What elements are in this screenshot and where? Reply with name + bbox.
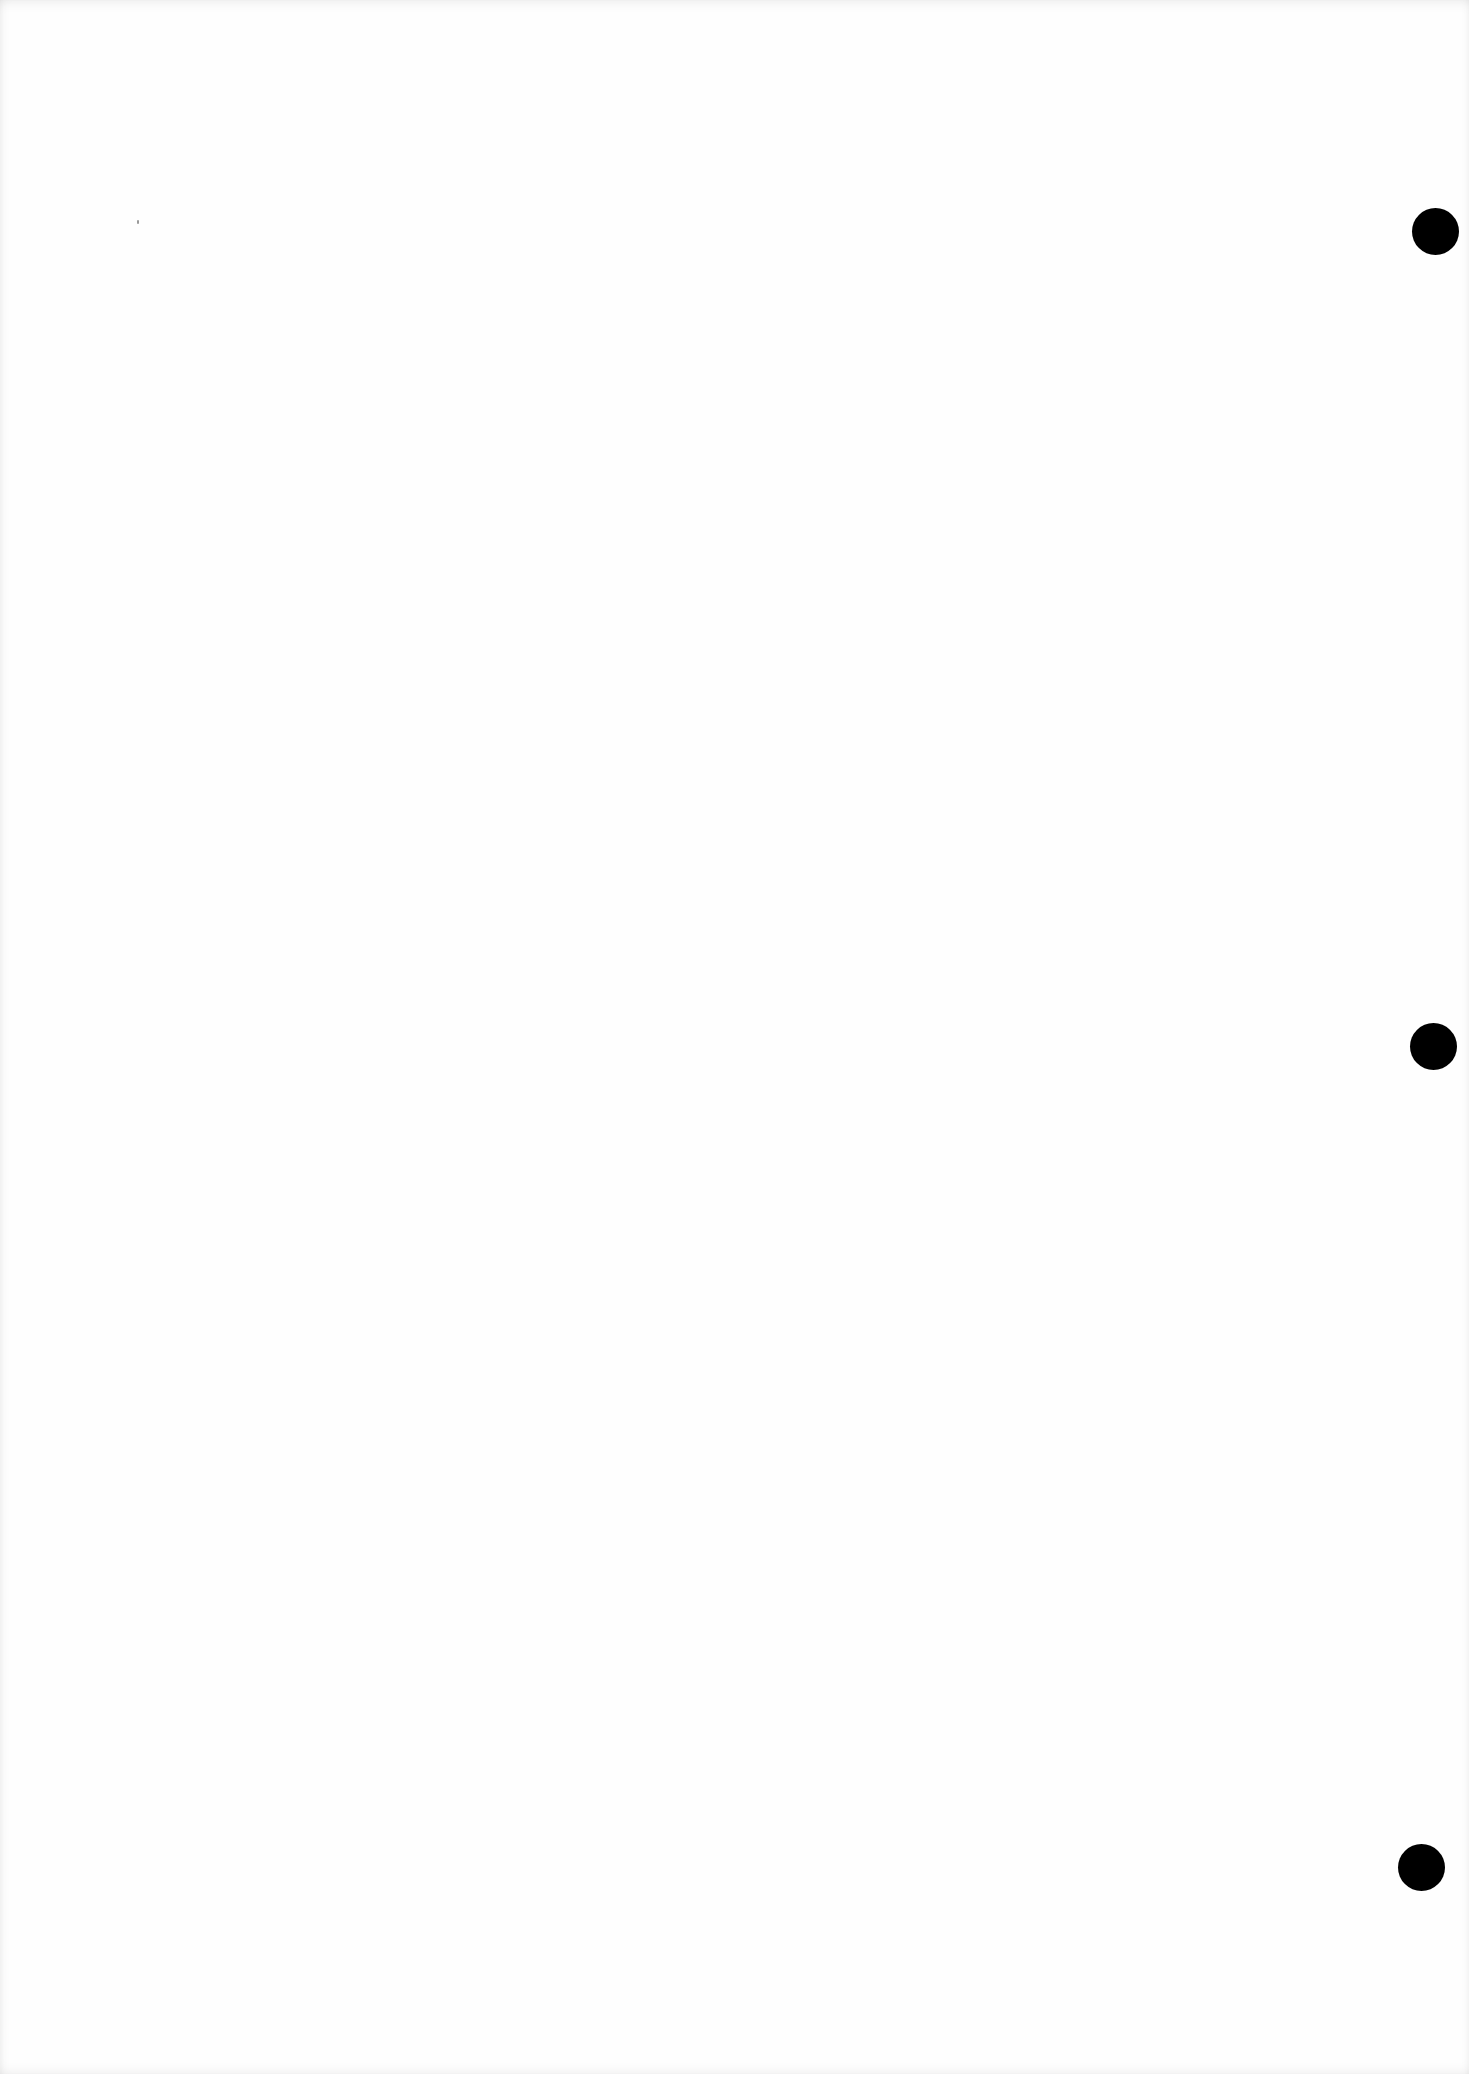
blank-document-page <box>0 0 1469 2074</box>
punch-hole-bottom <box>1398 1844 1445 1891</box>
punch-hole-top <box>1412 208 1459 255</box>
punch-hole-middle <box>1410 1023 1457 1070</box>
scan-speck <box>137 220 139 224</box>
